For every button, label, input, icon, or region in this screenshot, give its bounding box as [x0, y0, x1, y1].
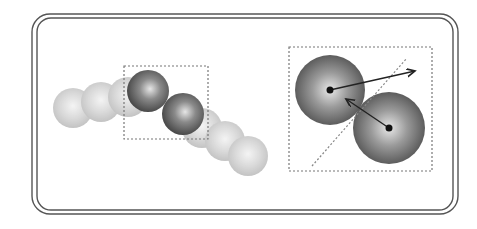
collision-diagram	[0, 0, 477, 229]
center-dot-upper	[327, 87, 334, 94]
solid-sphere-b	[162, 93, 204, 135]
ghost-sphere	[228, 136, 268, 176]
center-dot-lower	[386, 125, 393, 132]
solid-sphere-a	[127, 70, 169, 112]
